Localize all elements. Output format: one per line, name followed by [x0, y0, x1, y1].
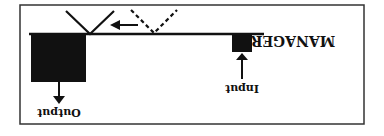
manager-title: MANAGER	[250, 33, 335, 49]
shift-arrow-head	[110, 20, 120, 30]
manager-diagram: MANAGER Input Output	[0, 0, 384, 136]
input-block	[232, 35, 252, 52]
input-arrow-head	[236, 53, 248, 60]
dashed-v-valve	[131, 10, 177, 33]
input-label: Input	[224, 82, 259, 95]
solid-v-valve	[66, 11, 114, 34]
output-label: Output	[36, 106, 80, 119]
output-block	[31, 35, 86, 82]
output-arrow-head	[53, 96, 65, 104]
